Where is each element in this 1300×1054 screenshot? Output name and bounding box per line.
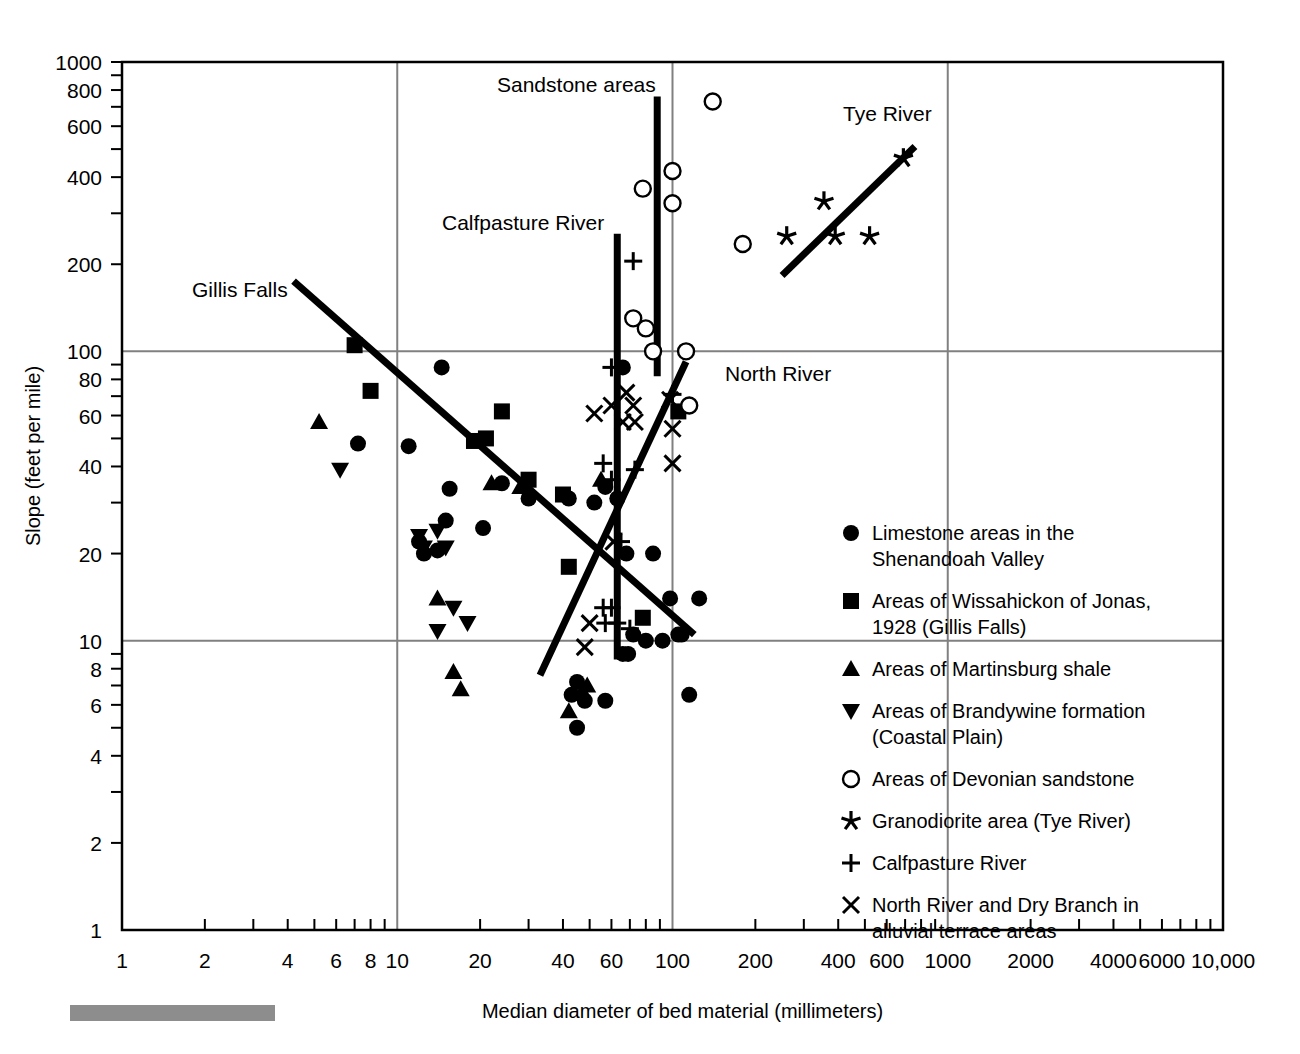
y-tick-label: 40 [79,455,102,478]
x-tick-label: 200 [738,949,773,972]
y-tick-label: 80 [79,368,102,391]
legend-item-1[interactable]: Areas of Wissahickon of Jonas,1928 (Gill… [843,590,1151,638]
annotation-calfpasture-river: Calfpasture River [442,211,604,234]
legend-item-3[interactable]: Areas of Brandywine formation(Coastal Pl… [842,700,1145,748]
legend-label: North River and Dry Branch in [872,894,1139,916]
marker-filled-triangle-up [428,589,446,605]
legend-item-4[interactable]: Areas of Devonian sandstone [843,768,1134,790]
annotation-sandstone-areas: Sandstone areas [497,73,656,96]
legend-label: 1928 (Gillis Falls) [872,616,1026,638]
x-axis-ticks: 1246810204060100200400600100020004000600… [116,919,1255,972]
scatter-plot-svg: 1246810204060100200400600100020004000600… [0,0,1300,1054]
marker-plus [842,854,860,872]
marker-filled-triangle-down [842,704,860,720]
legend-label: Areas of Devonian sandstone [872,768,1134,790]
marker-open-circle [735,236,751,252]
marker-filled-triangle-up [452,680,470,696]
marker-filled-circle [401,438,417,454]
x-tick-label: 1000 [924,949,971,972]
x-tick-label: 4000 [1090,949,1137,972]
marker-filled-circle [691,590,707,606]
marker-cross [586,405,602,421]
gray-scale-bar-artifact [70,1005,275,1021]
x-tick-label: 1 [116,949,128,972]
legend-item-6[interactable]: Calfpasture River [842,852,1027,874]
marker-filled-triangle-down [428,624,446,640]
x-tick-label: 40 [551,949,574,972]
marker-filled-circle [569,720,585,736]
y-tick-label: 4 [90,745,102,768]
marker-filled-circle [586,495,602,511]
series-7 [577,385,681,656]
y-tick-label: 60 [79,405,102,428]
marker-star [841,811,860,829]
figure-root: 1246810204060100200400600100020004000600… [0,0,1300,1054]
x-tick-label: 8 [365,949,377,972]
y-tick-label: 2 [90,832,102,855]
marker-filled-circle [645,546,661,562]
series-0 [350,359,707,735]
marker-filled-square [347,337,363,353]
y-tick-label: 600 [67,115,102,138]
marker-filled-circle [434,359,450,375]
y-axis-ticks: 2468102040608010020040060080010001 [55,51,122,942]
marker-filled-circle [442,481,458,497]
marker-open-circle [843,771,859,787]
marker-filled-circle [475,520,491,536]
marker-filled-circle [609,490,625,506]
legend-label: (Coastal Plain) [872,726,1003,748]
x-tick-label: 100 [655,949,690,972]
marker-filled-circle [350,436,366,452]
marker-open-circle [665,195,681,211]
marker-star [814,191,833,209]
x-tick-label: 2 [199,949,211,972]
legend: Limestone areas in theShenandoah ValleyA… [841,522,1151,942]
legend-label: Granodiorite area (Tye River) [872,810,1131,832]
marker-filled-triangle-down [459,616,477,632]
x-tick-label: 2000 [1007,949,1054,972]
trend-line-gillis-falls [294,281,695,635]
y-tick-label: 20 [79,543,102,566]
marker-cross [843,897,859,913]
marker-filled-square [494,403,510,419]
chart-annotations: Sandstone areasTye RiverCalfpasture Rive… [192,73,932,385]
legend-item-5[interactable]: Granodiorite area (Tye River) [841,810,1130,832]
y-tick-label: 10 [79,630,102,653]
marker-open-circle [678,343,694,359]
marker-filled-square [555,487,571,503]
marker-filled-circle [662,590,678,606]
y-tick-label: 200 [67,253,102,276]
marker-open-circle [645,343,661,359]
marker-filled-circle [681,687,697,703]
marker-filled-triangle-down [444,601,462,617]
gridlines [122,62,1223,930]
marker-filled-triangle-up [310,413,328,429]
x-tick-label: 20 [468,949,491,972]
x-axis-title: Median diameter of bed material (millime… [482,1000,883,1022]
legend-item-0[interactable]: Limestone areas in theShenandoah Valley [843,522,1074,570]
legend-label: Areas of Wissahickon of Jonas, [872,590,1151,612]
annotation-gillis-falls: Gillis Falls [192,278,288,301]
marker-filled-square [635,610,651,626]
x-tick-label: 10,000 [1191,949,1255,972]
marker-filled-triangle-up [842,660,860,676]
y-tick-label: 8 [90,658,102,681]
legend-item-7[interactable]: North River and Dry Branch inalluvial te… [843,894,1139,942]
marker-open-circle [635,181,651,197]
marker-filled-triangle-up [560,702,578,718]
marker-cross [627,414,643,430]
y-tick-label: 100 [67,340,102,363]
series-6 [594,252,681,638]
legend-label: Limestone areas in the [872,522,1074,544]
legend-label: Shenandoah Valley [872,548,1044,570]
marker-open-circle [665,163,681,179]
marker-plus [594,454,612,472]
y-tick-label: 1000 [55,51,102,74]
legend-item-2[interactable]: Areas of Martinsburg shale [842,658,1111,680]
marker-open-circle [681,397,697,413]
legend-label: Areas of Martinsburg shale [872,658,1111,680]
marker-filled-triangle-up [444,663,462,679]
y-tick-label: 800 [67,79,102,102]
marker-star [777,226,796,244]
marker-filled-circle [597,693,613,709]
